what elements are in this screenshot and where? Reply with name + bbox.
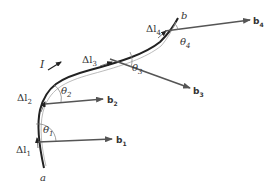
endpoint-a-label: a (40, 172, 46, 182)
current-arrow (48, 62, 61, 70)
delta-l3-label: Δl3 (82, 54, 97, 68)
delta-l2-label: Δl2 (17, 92, 32, 106)
delta-l4-label: Δl4 (146, 23, 161, 37)
wire-diagram: I a b Δl1 Δl2 Δl3 Δl4 θ1 θ2 θ3 θ4 b1 b2 … (0, 0, 271, 182)
endpoint-b-label: b (181, 10, 187, 21)
theta2-label: θ2 (61, 85, 72, 99)
b3-label: b3 (193, 86, 204, 98)
current-label: I (39, 58, 45, 71)
theta4-label: θ4 (180, 36, 191, 50)
b4-label: b4 (253, 16, 264, 28)
vector-b1 (38, 139, 112, 142)
delta-l1-label: Δl1 (16, 144, 31, 158)
b1-label: b1 (116, 135, 127, 147)
b2-label: b2 (107, 95, 118, 107)
vector-b3 (110, 59, 190, 88)
vector-b2 (45, 99, 103, 104)
wire (38, 18, 178, 168)
diagram-canvas: I a b Δl1 Δl2 Δl3 Δl4 θ1 θ2 θ3 θ4 b1 b2 … (0, 0, 271, 182)
theta1-label: θ1 (43, 124, 54, 138)
theta3-label: θ3 (132, 62, 143, 76)
